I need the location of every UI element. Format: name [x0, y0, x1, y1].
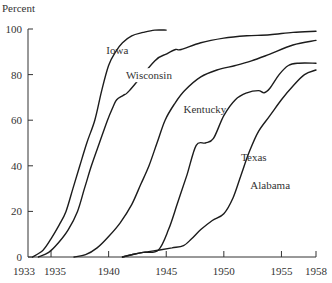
y-axis: 020406080100	[6, 23, 34, 263]
adoption-line-chart: Percent 020406080100 1933193519401945195…	[0, 0, 332, 283]
y-tick-label: 40	[11, 160, 23, 172]
x-tick-label: 1933	[13, 265, 36, 277]
series-label-wisconsin: Wisconsin	[126, 69, 172, 81]
series-label-alabama: Alabama	[250, 179, 290, 191]
x-tick-label: 1940	[98, 265, 121, 277]
series-line-wisconsin	[38, 31, 316, 257]
y-axis-title: Percent	[2, 2, 35, 14]
y-tick-label: 80	[11, 69, 23, 81]
series-label-iowa: Iowa	[106, 44, 128, 56]
x-tick-label: 1945	[155, 265, 178, 277]
series-line-alabama	[123, 70, 317, 257]
y-tick-label: 0	[17, 251, 23, 263]
x-tick-label: 1955	[270, 265, 293, 277]
series-labels: IowaWisconsinKentuckyTexasAlabama	[106, 44, 290, 191]
x-tick-label: 1958	[305, 265, 328, 277]
x-tick-label: 1950	[213, 265, 236, 277]
x-tick-label: 1935	[44, 265, 67, 277]
x-axis: 1933193519401945195019551958	[13, 251, 328, 277]
y-tick-label: 20	[11, 205, 23, 217]
series-label-kentucky: Kentucky	[184, 103, 227, 115]
series-curves	[33, 30, 316, 257]
series-label-texas: Texas	[241, 151, 267, 163]
y-tick-label: 60	[11, 114, 23, 126]
y-tick-label: 100	[6, 23, 23, 35]
